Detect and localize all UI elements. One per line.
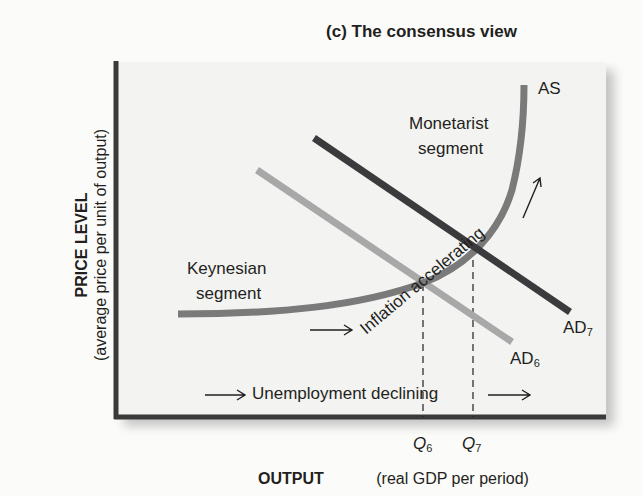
inflation-accelerating-label: Inflation accelerating [356,223,488,338]
ad6-label: AD6 [510,349,540,369]
x-axis-label: OUTPUT (real GDP per period) [0,470,643,488]
as-label: AS [538,79,561,99]
inflation-arrow-up-icon [523,178,541,218]
q6-label: Q6 [413,434,432,454]
unemployment-arrow-left-icon [205,390,245,400]
q7-label: Q7 [462,434,481,454]
ad7-line [314,138,570,312]
unemployment-declining-label: Unemployment declining [252,384,438,404]
inflation-arrow-left-icon [310,325,352,335]
y-axis-label: PRICE LEVEL (average price per unit of o… [72,129,110,361]
unemployment-arrow-right-icon [488,390,530,400]
monetarist-label-line2: segment [418,139,483,159]
ad7-label: AD7 [563,318,593,338]
keynesian-label-line2: segment [196,284,261,304]
keynesian-label-line1: Keynesian [187,259,266,279]
monetarist-label-line1: Monetarist [409,114,488,134]
